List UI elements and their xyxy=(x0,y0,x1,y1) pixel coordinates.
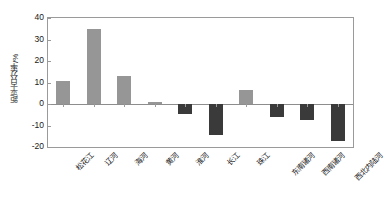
plot-area xyxy=(47,17,354,148)
y-tick-mark xyxy=(48,126,51,127)
x-tick-mark xyxy=(94,104,95,107)
x-tick-label: 淮河 xyxy=(195,152,211,168)
y-tick-mark xyxy=(48,83,51,84)
x-tick-mark xyxy=(307,104,308,107)
x-tick-label: 海河 xyxy=(134,152,150,168)
x-tick-label: 西南诸河 xyxy=(321,152,347,178)
x-tick-label: 西北内陆河 xyxy=(354,152,385,183)
y-tick-label: 20 xyxy=(20,56,44,65)
y-tick-label: -20 xyxy=(20,142,44,151)
bar xyxy=(209,104,223,135)
x-tick-mark xyxy=(185,104,186,107)
x-tick-mark xyxy=(338,104,339,107)
y-tick-mark xyxy=(48,61,51,62)
y-tick-label: 0 xyxy=(20,99,44,108)
x-tick-label: 东南诸河 xyxy=(291,152,317,178)
bar xyxy=(239,90,253,104)
x-tick-label: 松花江 xyxy=(75,152,96,173)
y-tick-label: 30 xyxy=(20,34,44,43)
y-tick-label: 40 xyxy=(20,13,44,22)
y-tick-label: -10 xyxy=(20,120,44,129)
x-tick-mark xyxy=(63,104,64,107)
y-tick-mark xyxy=(48,18,51,19)
x-tick-mark xyxy=(124,104,125,107)
x-tick-mark xyxy=(246,104,247,107)
y-axis-tick-labels: 403020100-10-20 xyxy=(20,10,44,155)
bar xyxy=(87,29,101,104)
x-tick-mark xyxy=(155,104,156,107)
bar xyxy=(56,81,70,104)
x-axis-tick-labels: 松花江辽河海河黄河淮河长江珠江东南诸河西南诸河西北内陆河 xyxy=(47,148,354,206)
x-tick-label: 长江 xyxy=(226,152,242,168)
y-tick-label: 10 xyxy=(20,77,44,86)
bar xyxy=(331,104,345,141)
bar xyxy=(117,76,131,104)
x-tick-mark xyxy=(216,104,217,107)
y-tick-mark xyxy=(48,104,51,105)
x-tick-label: 黄河 xyxy=(165,152,181,168)
x-tick-mark xyxy=(277,104,278,107)
y-tick-mark xyxy=(48,40,51,41)
x-tick-label: 辽河 xyxy=(104,152,120,168)
x-tick-label: 珠江 xyxy=(256,152,272,168)
